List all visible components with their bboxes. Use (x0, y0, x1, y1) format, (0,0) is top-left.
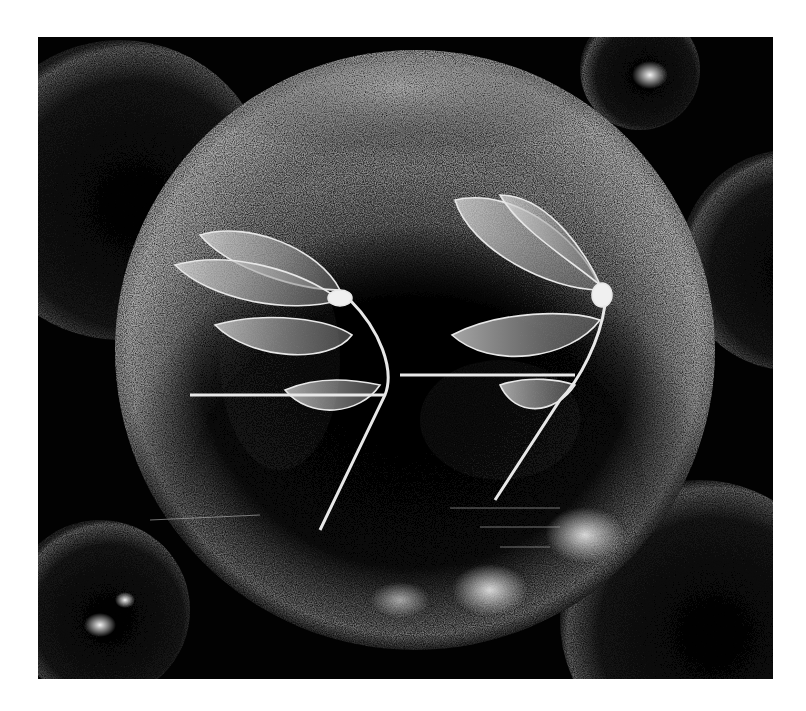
artwork-panel (38, 37, 773, 679)
artwork-illustration (38, 37, 773, 679)
main-sphere (115, 50, 715, 650)
